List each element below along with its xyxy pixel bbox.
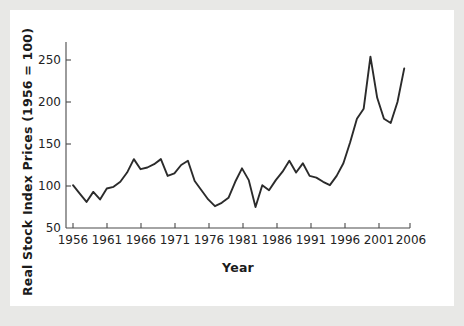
x-tick-label-2006: 2006	[396, 233, 427, 247]
y-tick-labels: 250 200 150 100 50	[38, 53, 61, 235]
x-tick-label-1996: 1996	[330, 233, 361, 247]
x-tick-label-1966: 1966	[126, 233, 157, 247]
x-tick-label-1961: 1961	[92, 233, 123, 247]
data-line-real-stock-index-prices	[73, 57, 404, 207]
x-tick-label-1956: 1956	[58, 233, 89, 247]
y-tick-label-100: 100	[38, 179, 61, 193]
x-axis-label: Year	[221, 260, 254, 275]
chart-card: Real Stock Index Prices (1956 = 100) 250…	[10, 10, 454, 306]
y-tick-label-250: 250	[38, 53, 61, 67]
x-tick-label-2001: 2001	[364, 233, 395, 247]
y-tick-label-150: 150	[38, 137, 61, 151]
y-tick-marks	[66, 60, 71, 186]
x-tick-marks	[73, 223, 410, 228]
stock-index-line-chart: Real Stock Index Prices (1956 = 100) 250…	[10, 10, 454, 306]
x-tick-label-1991: 1991	[296, 233, 327, 247]
y-axis-label: Real Stock Index Prices (1956 = 100)	[20, 28, 35, 296]
x-tick-label-1986: 1986	[262, 233, 293, 247]
figure-page: Real Stock Index Prices (1956 = 100) 250…	[0, 0, 464, 326]
x-tick-label-1981: 1981	[228, 233, 259, 247]
y-tick-label-200: 200	[38, 95, 61, 109]
x-tick-labels: 1956 1961 1966 1971 1976 1981 1986 1991 …	[58, 233, 427, 247]
x-tick-label-1976: 1976	[194, 233, 225, 247]
x-tick-label-1971: 1971	[160, 233, 191, 247]
